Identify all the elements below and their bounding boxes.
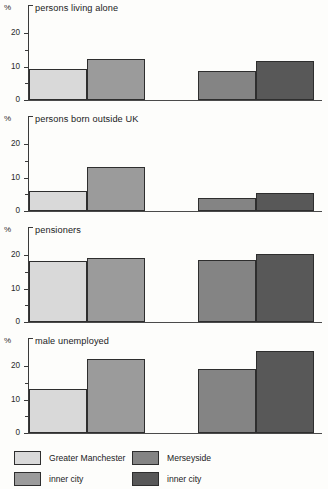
y-axis-tick-minor xyxy=(25,83,28,84)
bar xyxy=(87,167,145,211)
x-axis-baseline xyxy=(28,433,322,434)
bar xyxy=(256,193,314,211)
y-axis-tick-label: 10 xyxy=(2,174,20,182)
bar-chart-figure: %persons living alone01020%persons born … xyxy=(0,0,328,489)
bar xyxy=(87,359,145,433)
y-axis-tick-minor xyxy=(25,50,28,51)
y-axis-top-cap xyxy=(29,338,33,339)
bar xyxy=(87,258,145,322)
y-axis-tick-minor xyxy=(25,383,28,384)
panel-title: persons living alone xyxy=(35,3,118,13)
y-axis-tick-minor xyxy=(25,194,28,195)
y-axis-tick-major xyxy=(24,400,28,401)
x-axis-baseline xyxy=(28,211,322,212)
y-axis-tick-label: 0 xyxy=(2,429,20,437)
y-axis-unit-label: % xyxy=(4,4,11,12)
y-axis-tick-minor xyxy=(25,305,28,306)
y-axis-tick-major xyxy=(24,366,28,367)
x-axis-baseline xyxy=(28,322,322,323)
y-axis-tick-label: 10 xyxy=(2,63,20,71)
y-axis-tick-major xyxy=(24,211,28,212)
y-axis-unit-label: % xyxy=(4,115,11,123)
bar xyxy=(256,254,314,322)
y-axis-tick-minor xyxy=(25,161,28,162)
y-axis-tick-major xyxy=(24,144,28,145)
y-axis-tick-label: 0 xyxy=(2,96,20,104)
y-axis-top-cap xyxy=(29,227,33,228)
legend-item-greater-manchester: Greater Manchester xyxy=(14,451,125,465)
y-axis-tick-label: 10 xyxy=(2,285,20,293)
y-axis-tick-label: 20 xyxy=(2,251,20,259)
bar xyxy=(256,351,314,433)
chart-legend: Greater Manchester Merseyside inner city… xyxy=(0,448,328,489)
bar xyxy=(198,369,256,433)
y-axis-tick-major xyxy=(24,255,28,256)
y-axis-unit-label: % xyxy=(4,337,11,345)
legend-item-greater-manchester-inner-city: inner city xyxy=(14,472,83,486)
panel-title: male unemployed xyxy=(35,336,109,346)
legend-label-greater-manchester-inner-city: inner city xyxy=(49,475,83,484)
bar xyxy=(29,191,87,211)
y-axis-tick-label: 10 xyxy=(2,396,20,404)
y-axis-tick-label: 0 xyxy=(2,318,20,326)
legend-label-greater-manchester: Greater Manchester xyxy=(49,454,125,463)
bar xyxy=(29,389,87,433)
bar xyxy=(29,69,87,100)
bar xyxy=(198,71,256,100)
y-axis-tick-major xyxy=(24,100,28,101)
x-axis-baseline xyxy=(28,100,322,101)
legend-swatch-greater-manchester xyxy=(14,451,41,465)
legend-swatch-merseyside-inner-city xyxy=(132,472,159,486)
y-axis-tick-minor xyxy=(25,416,28,417)
y-axis-tick-major xyxy=(24,67,28,68)
y-axis-tick-label: 20 xyxy=(2,362,20,370)
legend-swatch-greater-manchester-inner-city xyxy=(14,472,41,486)
bar xyxy=(256,61,314,100)
legend-label-merseyside: Merseyside xyxy=(167,454,211,463)
y-axis-tick-major xyxy=(24,322,28,323)
y-axis-unit-label: % xyxy=(4,226,11,234)
y-axis-tick-label: 20 xyxy=(2,140,20,148)
bar xyxy=(198,198,256,211)
legend-item-merseyside: Merseyside xyxy=(132,451,211,465)
legend-swatch-merseyside xyxy=(132,451,159,465)
legend-item-merseyside-inner-city: inner city xyxy=(132,472,201,486)
y-axis-top-cap xyxy=(29,5,33,6)
bar xyxy=(198,260,256,322)
legend-label-merseyside-inner-city: inner city xyxy=(167,475,201,484)
y-axis-tick-major xyxy=(24,433,28,434)
bar xyxy=(29,261,87,322)
y-axis-tick-label: 0 xyxy=(2,207,20,215)
y-axis-tick-major xyxy=(24,33,28,34)
y-axis-tick-major xyxy=(24,289,28,290)
panel-title: pensioners xyxy=(35,225,81,235)
y-axis-tick-minor xyxy=(25,272,28,273)
y-axis-tick-label: 20 xyxy=(2,29,20,37)
panel-title: persons born outside UK xyxy=(35,114,138,124)
y-axis-top-cap xyxy=(29,116,33,117)
bar xyxy=(87,59,145,100)
y-axis-tick-major xyxy=(24,178,28,179)
